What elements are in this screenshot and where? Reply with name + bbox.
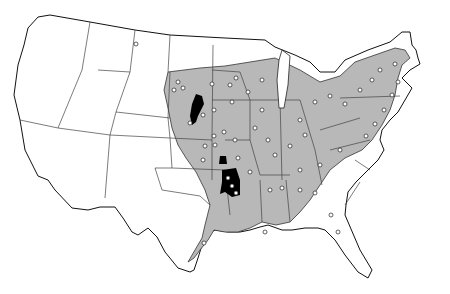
us-range-map bbox=[0, 0, 450, 294]
dense-area-oklahoma-small bbox=[219, 156, 227, 164]
